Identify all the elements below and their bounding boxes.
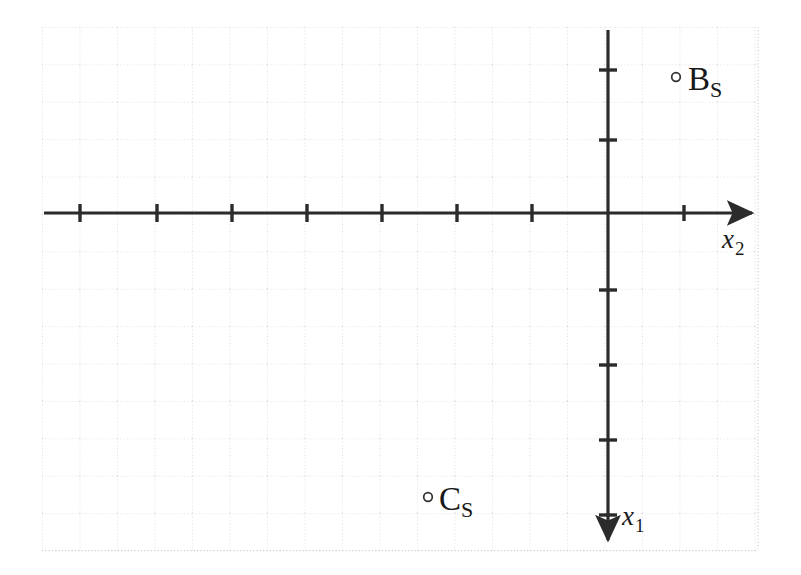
x2-axis-label: x2 bbox=[722, 226, 744, 258]
point-c-s-label: CS bbox=[439, 483, 473, 521]
point-c-s-label-base: C bbox=[439, 481, 461, 517]
point-c-s-label-subscript: S bbox=[461, 497, 473, 522]
x1-axis-label-base: x bbox=[622, 501, 634, 531]
coordinate-diagram bbox=[0, 0, 801, 575]
point-b-s-label-subscript: S bbox=[710, 77, 722, 102]
figure-canvas: x2 x1 BS CS bbox=[0, 0, 801, 575]
x2-axis-label-base: x bbox=[722, 224, 734, 254]
point-b-s-label-base: B bbox=[688, 61, 710, 97]
x1-axis-label: x1 bbox=[622, 503, 644, 535]
grid-layer bbox=[42, 27, 758, 551]
x2-axis-label-subscript: 2 bbox=[734, 238, 745, 259]
x1-axis-label-subscript: 1 bbox=[634, 515, 645, 536]
point-b-s-label: BS bbox=[688, 63, 722, 101]
